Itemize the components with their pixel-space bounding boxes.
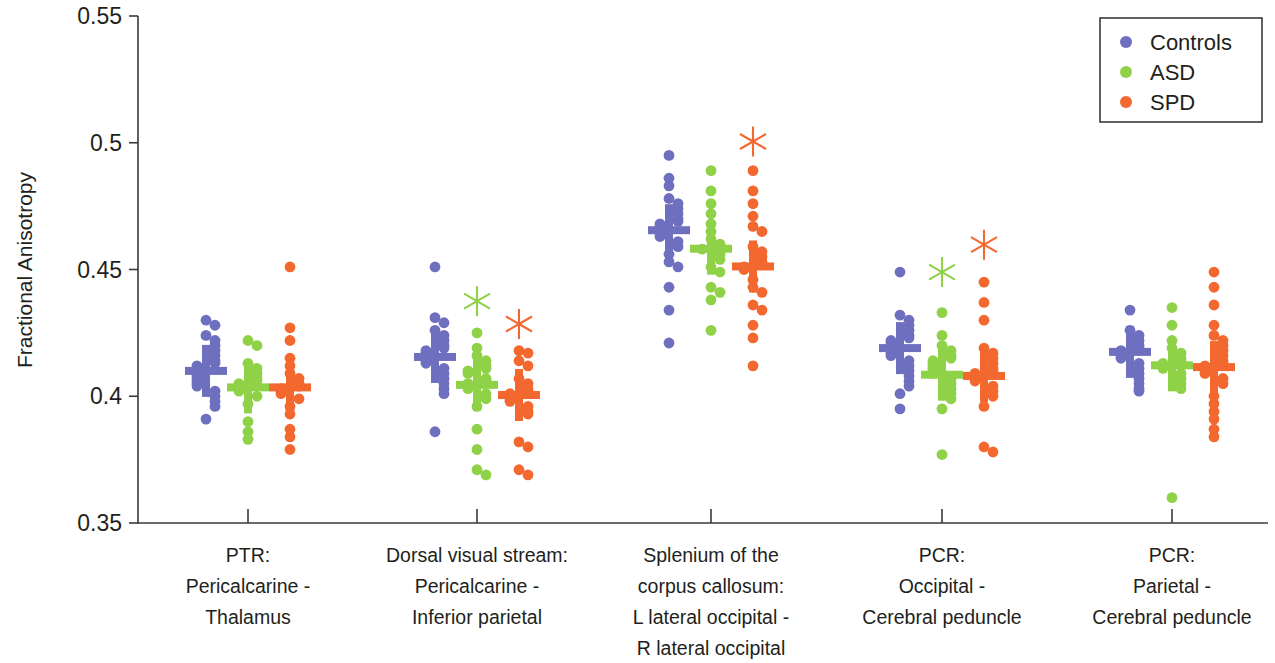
data-point — [748, 360, 759, 371]
data-point — [243, 416, 254, 427]
legend-label-controls: Controls — [1150, 30, 1232, 55]
data-point — [430, 262, 441, 273]
median-stem — [938, 349, 946, 401]
data-point — [979, 297, 990, 308]
data-point — [937, 307, 948, 318]
data-point — [706, 208, 717, 219]
data-point — [523, 348, 534, 359]
significance-asterisk — [971, 230, 997, 260]
data-point — [706, 198, 717, 209]
median-stem — [244, 361, 252, 413]
data-point — [285, 431, 296, 442]
data-point — [252, 391, 263, 402]
data-point — [463, 368, 474, 379]
median-stem — [749, 240, 757, 292]
data-point — [294, 393, 305, 404]
data-point — [895, 388, 906, 399]
data-point — [715, 287, 726, 298]
data-point — [757, 287, 768, 298]
data-point — [285, 444, 296, 455]
median-bars-layer — [185, 204, 1235, 421]
y-tick-label: 0.5 — [90, 130, 122, 156]
data-point — [937, 330, 948, 341]
y-tick-label: 0.35 — [77, 510, 122, 536]
y-axis-label: Fractional Anisotropy — [13, 171, 36, 368]
median-stem — [473, 359, 481, 411]
data-point — [748, 333, 759, 344]
x-axis-category-label-line: Cerebral peduncle — [862, 606, 1021, 628]
data-point — [904, 333, 915, 344]
data-point — [715, 254, 726, 265]
significance-asterisk — [740, 126, 766, 156]
data-point — [439, 343, 450, 354]
x-axis-category-label-line: Dorsal visual stream: — [386, 544, 568, 566]
median-stem — [431, 331, 439, 383]
y-axis-ticks: 0.350.40.450.50.55 — [77, 3, 138, 536]
data-point — [1218, 378, 1229, 389]
significance-asterisk — [929, 257, 955, 287]
data-point — [946, 353, 957, 364]
x-axis-category-label-line: Occipital - — [899, 575, 986, 597]
axis-spine — [138, 16, 1268, 523]
data-point — [523, 360, 534, 371]
data-point — [664, 180, 675, 191]
data-point — [243, 434, 254, 445]
data-point — [979, 401, 990, 412]
data-point — [439, 317, 450, 328]
data-point — [252, 340, 263, 351]
data-point — [979, 315, 990, 326]
data-point — [664, 150, 675, 161]
data-point — [1167, 320, 1178, 331]
data-point — [1167, 492, 1178, 503]
data-point — [1209, 267, 1220, 278]
fractional-anisotropy-scatter-chart: 0.350.40.450.50.55 PTR:Pericalcarine -Th… — [0, 0, 1275, 663]
data-point — [1125, 305, 1136, 316]
data-point — [706, 295, 717, 306]
x-axis-category-label-line: PCR: — [919, 544, 966, 566]
x-axis-category-labels: PTR:Pericalcarine -ThalamusDorsal visual… — [186, 544, 1252, 659]
data-point — [481, 393, 492, 404]
significance-asterisk — [506, 309, 532, 339]
data-point — [673, 216, 684, 227]
median-stem — [707, 223, 715, 275]
data-point — [706, 186, 717, 197]
x-axis-category-label-line: Parietal - — [1133, 575, 1211, 597]
legend-swatch-controls — [1120, 36, 1132, 48]
data-point — [748, 198, 759, 209]
data-point — [1209, 431, 1220, 442]
data-point — [472, 327, 483, 338]
data-point — [706, 325, 717, 336]
data-point — [481, 469, 492, 480]
data-point — [1176, 383, 1187, 394]
figure-container: 0.350.40.450.50.55 PTR:Pericalcarine -Th… — [0, 0, 1275, 663]
x-axis-category-label-line: PTR: — [226, 544, 270, 566]
median-stem — [286, 361, 294, 413]
data-point — [673, 262, 684, 273]
legend-swatch-asd — [1120, 66, 1132, 78]
x-axis-category-label-line: Inferior parietal — [412, 606, 542, 628]
data-point — [664, 305, 675, 316]
significance-asterisk — [464, 286, 490, 316]
data-point — [748, 165, 759, 176]
data-point — [988, 447, 999, 458]
data-point — [946, 393, 957, 404]
data-point — [285, 335, 296, 346]
x-axis-category-label-line: Pericalcarine - — [415, 575, 540, 597]
data-point — [1209, 320, 1220, 331]
x-axis-category-label-line: L lateral occipital - — [633, 606, 789, 628]
data-point — [937, 404, 948, 415]
median-stem — [1126, 326, 1134, 378]
median-stem — [896, 322, 904, 374]
median-stem — [202, 345, 210, 397]
chart-axes — [138, 16, 1268, 523]
y-tick-label: 0.4 — [90, 383, 122, 409]
data-point — [472, 424, 483, 435]
data-point — [757, 305, 768, 316]
data-point — [1134, 386, 1145, 397]
data-point — [937, 449, 948, 460]
legend-label-asd: ASD — [1150, 60, 1195, 85]
data-point — [439, 388, 450, 399]
data-point — [201, 414, 212, 425]
data-point — [979, 277, 990, 288]
data-point — [285, 262, 296, 273]
